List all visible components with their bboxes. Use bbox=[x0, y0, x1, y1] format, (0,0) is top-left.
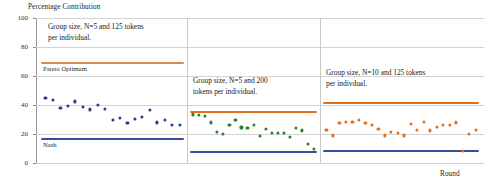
y-axis-tick-label: 100 bbox=[4, 14, 28, 22]
data-point bbox=[331, 134, 334, 137]
data-point bbox=[312, 148, 315, 151]
y-axis-tick-label: 20 bbox=[4, 130, 28, 138]
gridline bbox=[36, 47, 484, 48]
data-point bbox=[191, 113, 194, 116]
y-axis-line bbox=[36, 18, 37, 163]
data-point bbox=[234, 118, 237, 121]
y-axis-tick bbox=[33, 134, 36, 135]
gridline bbox=[36, 163, 484, 164]
data-point bbox=[429, 129, 432, 132]
data-point bbox=[178, 123, 181, 126]
y-axis-tick-label: 80 bbox=[4, 43, 28, 51]
y-axis-tick-label: 60 bbox=[4, 72, 28, 80]
data-point bbox=[383, 134, 386, 137]
data-point bbox=[228, 124, 231, 127]
data-point bbox=[59, 106, 62, 109]
data-point bbox=[133, 117, 136, 120]
gridline bbox=[36, 105, 484, 106]
data-point bbox=[74, 100, 77, 103]
data-point bbox=[344, 120, 347, 123]
y-axis-tick-label: 40 bbox=[4, 101, 28, 109]
data-point bbox=[51, 98, 54, 101]
data-point bbox=[252, 124, 255, 127]
data-point bbox=[264, 127, 267, 130]
panel-separator bbox=[187, 18, 188, 163]
reference-line-pareto-optimum bbox=[41, 62, 184, 64]
reference-line-nash bbox=[41, 138, 184, 140]
data-point bbox=[416, 128, 419, 131]
data-point bbox=[246, 127, 249, 130]
data-point bbox=[294, 127, 297, 130]
data-point bbox=[325, 128, 328, 131]
data-point bbox=[216, 130, 219, 133]
data-point bbox=[141, 115, 144, 118]
y-axis-tick bbox=[33, 18, 36, 19]
data-point bbox=[403, 134, 406, 137]
reference-line-label-nash: Nash bbox=[43, 141, 57, 148]
data-point bbox=[222, 132, 225, 135]
gridline bbox=[36, 18, 484, 19]
data-point bbox=[435, 125, 438, 128]
data-point bbox=[197, 114, 200, 117]
data-point bbox=[442, 124, 445, 127]
y-axis-tick bbox=[33, 163, 36, 164]
data-point bbox=[89, 108, 92, 111]
data-point bbox=[204, 114, 207, 117]
panel-separator bbox=[320, 18, 321, 163]
data-point bbox=[288, 135, 291, 138]
data-point bbox=[126, 122, 129, 125]
chart-container: Percentage Contribution Round 0204060801… bbox=[0, 0, 492, 185]
data-point bbox=[370, 124, 373, 127]
data-point bbox=[300, 129, 303, 132]
reference-line-pareto-optimum bbox=[190, 111, 317, 113]
data-point bbox=[422, 120, 425, 123]
data-point bbox=[66, 104, 69, 107]
y-axis-tick-labels: 020406080100 bbox=[2, 0, 28, 185]
data-point bbox=[210, 121, 213, 124]
data-point bbox=[81, 106, 84, 109]
data-point bbox=[103, 107, 106, 110]
data-point bbox=[171, 123, 174, 126]
data-point bbox=[306, 143, 309, 146]
y-axis-tick bbox=[33, 105, 36, 106]
data-point bbox=[163, 118, 166, 121]
data-point bbox=[240, 126, 243, 129]
y-axis-tick bbox=[33, 47, 36, 48]
plot-area: Group size, N=5 and 125 tokens per indiv… bbox=[36, 18, 484, 163]
data-point bbox=[390, 130, 393, 133]
y-axis-title: Percentage Contribution bbox=[28, 3, 100, 11]
data-point bbox=[258, 135, 261, 138]
data-point bbox=[454, 121, 457, 124]
data-point bbox=[357, 118, 360, 121]
panel-annotation: Group size, N=10 and 125 tokens per indi… bbox=[326, 68, 425, 89]
data-point bbox=[118, 116, 121, 119]
panel-annotation: Group size, N=5 and 200 tokens per indiv… bbox=[193, 76, 268, 97]
y-axis-tick-label: 0 bbox=[4, 159, 28, 167]
data-point bbox=[467, 132, 470, 135]
data-point bbox=[377, 127, 380, 130]
reference-line-label-pareto-optimum: Pareto Optimum bbox=[43, 65, 87, 72]
data-point bbox=[409, 122, 412, 125]
data-point bbox=[351, 120, 354, 123]
panel-annotation: Group size, N=5 and 125 tokens per indiv… bbox=[48, 22, 144, 43]
data-point bbox=[338, 122, 341, 125]
y-axis-tick bbox=[33, 76, 36, 77]
reference-line-nash bbox=[323, 150, 479, 152]
data-point bbox=[44, 96, 47, 99]
data-point bbox=[111, 119, 114, 122]
reference-line-nash bbox=[190, 151, 317, 153]
data-point bbox=[156, 121, 159, 124]
data-point bbox=[364, 122, 367, 125]
data-point bbox=[148, 108, 151, 111]
data-point bbox=[474, 128, 477, 131]
x-axis-title: Round bbox=[440, 170, 460, 178]
reference-line-pareto-optimum bbox=[323, 102, 479, 104]
data-point bbox=[96, 103, 99, 106]
data-point bbox=[448, 123, 451, 126]
